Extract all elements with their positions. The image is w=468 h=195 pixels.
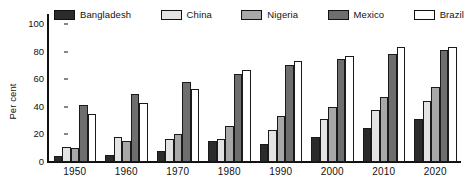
bar-group-1980: [204, 24, 256, 162]
legend-item-mexico: Mexico: [328, 10, 385, 20]
bar-china-1970: [165, 139, 174, 162]
legend-label: Brazil: [440, 10, 464, 20]
y-tick-label: 60: [18, 74, 44, 84]
y-axis-ticks: 020406080100: [18, 24, 44, 164]
bar-nigeria-2010: [380, 97, 389, 162]
bar-china-1990: [268, 130, 277, 162]
x-tick-label-1990: 1990: [255, 166, 307, 177]
legend-label: Mexico: [354, 10, 385, 20]
chart-legend: BangladeshChinaNigeriaMexicoBrazil: [54, 6, 464, 24]
legend-item-brazil: Brazil: [414, 10, 464, 20]
bar-nigeria-1950: [71, 148, 80, 162]
bar-bangladesh-1960: [105, 155, 114, 162]
y-tick-label: 100: [18, 19, 44, 29]
x-tick-label-1980: 1980: [204, 166, 256, 177]
bar-china-1960: [114, 137, 123, 162]
y-axis-label: Per cent: [7, 78, 18, 126]
bar-bangladesh-1990: [260, 144, 269, 162]
bar-mexico-1950: [79, 105, 88, 162]
bar-brazil-1950: [88, 114, 97, 162]
bar-mexico-2010: [388, 54, 397, 162]
bar-nigeria-2020: [431, 87, 440, 162]
x-tick-label-1970: 1970: [152, 166, 204, 177]
bar-mexico-1980: [234, 74, 243, 162]
legend-item-bangladesh: Bangladesh: [54, 10, 131, 20]
bar-group-2000: [307, 24, 359, 162]
bar-nigeria-1960: [122, 141, 131, 162]
y-tick-label: 40: [18, 102, 44, 112]
bar-china-2020: [423, 101, 432, 162]
bar-bangladesh-1980: [208, 141, 217, 162]
legend-swatch-icon: [414, 10, 435, 20]
bar-nigeria-1990: [277, 116, 286, 162]
bar-bangladesh-1950: [54, 156, 63, 162]
bar-bangladesh-1970: [157, 151, 166, 162]
bar-china-1980: [217, 139, 226, 162]
bar-mexico-1960: [131, 94, 140, 162]
y-tick-label: 0: [18, 157, 44, 167]
bar-china-1950: [62, 147, 71, 162]
legend-label: China: [187, 10, 212, 20]
y-tick-label: 20: [18, 130, 44, 140]
bar-brazil-1970: [191, 89, 200, 162]
legend-swatch-icon: [241, 10, 262, 20]
legend-item-china: China: [161, 10, 212, 20]
bar-brazil-2010: [397, 47, 406, 162]
bar-bangladesh-2020: [414, 119, 423, 162]
legend-label: Bangladesh: [80, 10, 131, 20]
bar-mexico-1990: [285, 65, 294, 162]
bar-group-1990: [255, 24, 307, 162]
bar-bangladesh-2000: [311, 137, 320, 162]
bar-brazil-2000: [345, 56, 354, 162]
bar-mexico-2000: [337, 59, 346, 163]
bar-mexico-1970: [182, 82, 191, 162]
bar-brazil-2020: [448, 47, 457, 162]
bar-nigeria-1970: [174, 134, 183, 162]
x-tick-label-2000: 2000: [307, 166, 359, 177]
bar-group-1960: [101, 24, 153, 162]
bar-group-2010: [358, 24, 410, 162]
bar-bangladesh-2010: [363, 128, 372, 163]
y-tick-label: 80: [18, 47, 44, 57]
plot-area: Per cent 020406080100 195019601970198019…: [0, 24, 468, 195]
x-axis-labels: 19501960197019801990200020102020: [49, 166, 461, 177]
bar-nigeria-2000: [328, 107, 337, 162]
x-tick-label-2010: 2010: [358, 166, 410, 177]
bar-brazil-1990: [294, 61, 303, 162]
x-tick-label-1960: 1960: [101, 166, 153, 177]
x-tick-label-1950: 1950: [49, 166, 101, 177]
bar-group-2020: [410, 24, 462, 162]
bar-chart: BangladeshChinaNigeriaMexicoBrazil Per c…: [0, 0, 468, 195]
bar-groups: [49, 24, 461, 162]
bar-group-1970: [152, 24, 204, 162]
bar-china-2010: [371, 110, 380, 162]
legend-swatch-icon: [328, 10, 349, 20]
x-tick-label-2020: 2020: [410, 166, 462, 177]
legend-item-nigeria: Nigeria: [241, 10, 298, 20]
bar-china-2000: [320, 119, 329, 162]
bar-mexico-2020: [440, 50, 449, 162]
bar-group-1950: [49, 24, 101, 162]
legend-swatch-icon: [54, 10, 75, 20]
bar-brazil-1960: [139, 103, 148, 162]
bar-brazil-1980: [242, 70, 251, 162]
bar-nigeria-1980: [225, 126, 234, 162]
legend-swatch-icon: [161, 10, 182, 20]
legend-label: Nigeria: [267, 10, 298, 20]
